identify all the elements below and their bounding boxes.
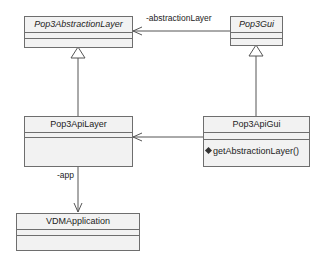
role-label-abstraction-layer: -abstractionLayer (146, 13, 212, 23)
class-pop3-gui[interactable]: Pop3Gui (230, 16, 283, 46)
operations-compartment (17, 236, 139, 250)
class-pop3-api-layer[interactable]: Pop3ApiLayer (24, 116, 133, 167)
generalization-apilayer-to-abstractionlayer (71, 47, 85, 116)
generalization-apigui-to-gui (249, 45, 263, 116)
class-name: Pop3ApiLayer (25, 117, 132, 133)
class-pop3-api-gui[interactable]: Pop3ApiGui getAbstractionLayer() (203, 116, 310, 167)
operation-diamond-icon (205, 147, 212, 154)
attributes-compartment (204, 133, 309, 140)
operations-compartment: getAbstractionLayer() (204, 140, 309, 166)
class-pop3-abstraction-layer[interactable]: Pop3AbstractionLayer (24, 16, 133, 48)
operations-compartment (231, 39, 282, 45)
operation-get-abstraction-layer[interactable]: getAbstractionLayer() (213, 146, 299, 156)
class-name: VDMApplication (17, 214, 139, 230)
association-apilayer-to-vdmapplication (74, 166, 82, 212)
association-gui-to-abstractionlayer (133, 27, 230, 35)
role-label-app: -app (57, 170, 74, 180)
class-name: Pop3AbstractionLayer (25, 17, 132, 33)
operations-compartment (25, 39, 132, 47)
class-name: Pop3Gui (231, 17, 282, 33)
class-vdm-application[interactable]: VDMApplication (16, 213, 140, 251)
operations-compartment (25, 138, 132, 166)
association-apigui-to-apilayer (133, 133, 203, 141)
class-name: Pop3ApiGui (204, 117, 309, 133)
